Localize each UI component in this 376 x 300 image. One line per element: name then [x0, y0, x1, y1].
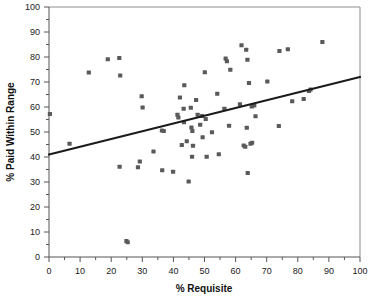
data-point	[286, 47, 290, 51]
data-point	[151, 149, 155, 153]
data-point	[247, 81, 251, 85]
x-tick-label: 0	[46, 266, 51, 276]
data-point	[138, 159, 142, 163]
x-tick-label: 100	[352, 266, 367, 276]
data-point	[198, 123, 202, 127]
data-point	[239, 43, 243, 47]
data-point	[117, 56, 121, 60]
data-point	[190, 155, 194, 159]
data-point	[253, 114, 257, 118]
data-point	[245, 126, 249, 130]
data-point	[201, 135, 205, 139]
y-tick-label: 10	[30, 227, 40, 237]
data-point	[203, 70, 207, 74]
y-tick-label: 40	[30, 152, 40, 162]
data-point	[187, 179, 191, 183]
data-point	[243, 145, 247, 149]
data-point	[277, 49, 281, 53]
scatter-plot-figure: 0102030405060708090100 01020304050607080…	[0, 0, 376, 300]
x-tick-label: 60	[231, 266, 241, 276]
y-tick-label: 80	[30, 52, 40, 62]
y-tick-label: 90	[30, 27, 40, 37]
data-point	[185, 139, 189, 143]
data-point	[265, 79, 269, 83]
data-point	[228, 68, 232, 72]
data-point	[246, 171, 250, 175]
x-axis-ticks: 0102030405060708090100	[46, 257, 367, 276]
data-point	[118, 165, 122, 169]
data-point	[190, 129, 194, 133]
chart-canvas: 0102030405060708090100 01020304050607080…	[0, 0, 376, 300]
data-point	[191, 144, 195, 148]
y-tick-label: 0	[35, 252, 40, 262]
x-tick-label: 90	[324, 266, 334, 276]
data-point	[277, 124, 281, 128]
x-tick-label: 80	[293, 266, 303, 276]
data-point	[87, 70, 91, 74]
data-point	[140, 94, 144, 98]
y-tick-label: 50	[30, 127, 40, 137]
data-point	[48, 112, 52, 116]
data-point	[178, 95, 182, 99]
data-point	[225, 59, 229, 63]
data-point	[320, 40, 324, 44]
data-point	[194, 98, 198, 102]
y-tick-label: 60	[30, 102, 40, 112]
data-point	[182, 83, 186, 87]
data-point	[290, 99, 294, 103]
y-axis-ticks: 0102030405060708090100	[25, 2, 49, 262]
x-axis-title: % Requisite	[176, 283, 233, 294]
data-point	[215, 92, 219, 96]
data-point	[217, 152, 221, 156]
data-point	[67, 142, 71, 146]
x-tick-label: 20	[106, 266, 116, 276]
data-point	[180, 143, 184, 147]
data-point	[189, 106, 193, 110]
data-point	[141, 105, 145, 109]
data-point	[182, 107, 186, 111]
plot-frame	[49, 7, 360, 257]
data-points-layer	[48, 40, 325, 244]
data-point	[106, 57, 110, 61]
y-tick-label: 20	[30, 202, 40, 212]
data-point	[250, 141, 254, 145]
trend-line	[49, 77, 360, 155]
data-point	[302, 97, 306, 101]
y-tick-label: 100	[25, 2, 40, 12]
x-tick-label: 50	[199, 266, 209, 276]
y-axis-title: % Paid Within Range	[5, 82, 16, 182]
x-tick-label: 30	[137, 266, 147, 276]
data-point	[244, 48, 248, 52]
data-point	[210, 130, 214, 134]
x-tick-label: 40	[168, 266, 178, 276]
x-tick-label: 10	[75, 266, 85, 276]
data-point	[204, 117, 208, 121]
data-point	[176, 115, 180, 119]
data-point	[118, 73, 122, 77]
data-point	[245, 58, 249, 62]
y-tick-label: 30	[30, 177, 40, 187]
x-tick-label: 70	[262, 266, 272, 276]
data-point	[126, 240, 130, 244]
data-point	[160, 168, 164, 172]
data-point	[136, 165, 140, 169]
data-point	[205, 155, 209, 159]
data-point	[171, 170, 175, 174]
y-tick-label: 70	[30, 77, 40, 87]
data-point	[227, 124, 231, 128]
data-point	[162, 129, 166, 133]
